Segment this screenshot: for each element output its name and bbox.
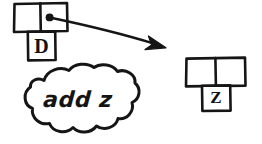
diagram-ink-layer <box>0 0 262 144</box>
pointer-arrow <box>52 18 166 50</box>
right-node-cell-divider <box>215 58 216 86</box>
diagram-canvas: D Z add z <box>0 0 262 144</box>
right-node-child-box <box>202 85 231 111</box>
right-node[interactable] <box>186 58 246 111</box>
left-node[interactable] <box>14 3 68 60</box>
thought-cloud-outline <box>25 64 139 132</box>
left-node-cell-divider <box>40 3 41 31</box>
left-node-child-box <box>28 32 56 61</box>
thought-cloud <box>25 64 139 132</box>
